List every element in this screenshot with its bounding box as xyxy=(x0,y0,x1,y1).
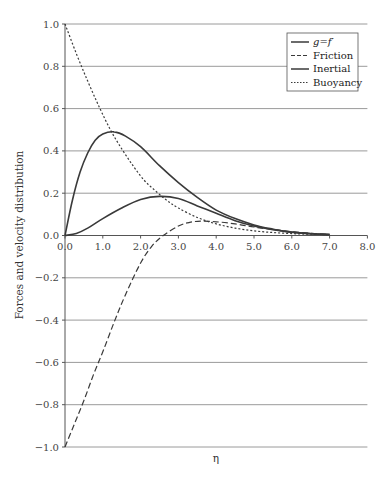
y-axis-ticks: 1.00.80.60.40.20.0−0.2−0.4−0.6−0.8−1.0 xyxy=(35,19,65,453)
x-tick-label: 6.0 xyxy=(284,241,300,252)
chart: 1.00.80.60.40.20.0−0.2−0.4−0.6−0.8−1.0 0… xyxy=(0,0,392,478)
x-tick-label: 0.0 xyxy=(57,241,73,252)
x-tick-label: 4.0 xyxy=(208,241,224,252)
legend-item: Inertial xyxy=(313,63,350,74)
x-tick-label: 8.0 xyxy=(359,241,375,252)
legend-item: Friction xyxy=(313,50,354,61)
series-g-f xyxy=(65,132,330,236)
x-tick-label: 3.0 xyxy=(170,241,186,252)
x-axis-ticks: 0.01.02.03.04.05.06.07.08.0 xyxy=(57,236,375,252)
series-friction xyxy=(65,221,330,447)
y-tick-label: 0.6 xyxy=(43,103,59,114)
legend-item: g=f′ xyxy=(313,36,334,47)
y-tick-label: 0.0 xyxy=(43,230,59,241)
x-tick-label: 1.0 xyxy=(95,241,111,252)
y-tick-label: 0.2 xyxy=(43,188,59,199)
y-tick-label: −0.4 xyxy=(35,315,59,326)
y-tick-label: −0.6 xyxy=(35,357,59,368)
y-tick-label: 0.8 xyxy=(43,61,59,72)
x-tick-label: 2.0 xyxy=(133,241,149,252)
y-tick-label: −0.8 xyxy=(35,399,59,410)
x-axis-title: η xyxy=(213,452,219,464)
legend: g=f′FrictionInertialBuoyancy xyxy=(287,33,362,91)
y-tick-label: −1.0 xyxy=(35,442,59,453)
x-tick-label: 5.0 xyxy=(246,241,262,252)
x-tick-label: 7.0 xyxy=(322,241,338,252)
y-tick-label: −0.2 xyxy=(35,272,59,283)
series-inertial xyxy=(65,196,330,235)
y-tick-label: 0.4 xyxy=(43,145,59,156)
y-axis-title: Forces and velocity distribution xyxy=(13,150,25,319)
y-tick-label: 1.0 xyxy=(43,19,59,30)
legend-item: Buoyancy xyxy=(313,77,362,88)
